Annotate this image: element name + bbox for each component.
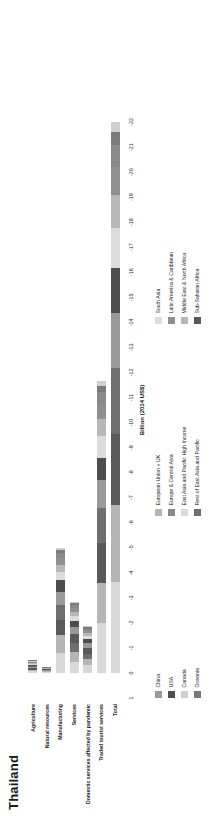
legend-item[interactable]: Sub-Saharan Africa — [191, 154, 203, 324]
category-label: Services — [71, 704, 77, 725]
bar-segment — [111, 368, 120, 434]
legend-label: USA — [168, 677, 174, 688]
legend-item[interactable]: Oceania — [191, 528, 203, 698]
category-label: Domestic services affected by pandemic — [85, 704, 91, 804]
legend-label: East Asia and Pacific High Income — [181, 426, 187, 505]
axis-tick-label: -22 — [128, 118, 134, 126]
bar-segment — [111, 228, 120, 268]
axis-tick-label: -8 — [128, 470, 134, 475]
legend-label: Middle East & North Africa — [181, 253, 187, 314]
bar-row — [97, 122, 106, 698]
legend-item[interactable]: Rest of East Asia and Pacific — [191, 346, 203, 516]
bar-segment — [42, 670, 51, 671]
category-label: Total — [112, 704, 118, 716]
legend-label: Canada — [181, 669, 187, 687]
bar-segment — [111, 313, 120, 368]
bar-row — [42, 122, 51, 698]
axis-tick-label: -20 — [128, 168, 134, 176]
bar-segment — [70, 605, 79, 608]
legend-swatch-icon — [181, 691, 188, 698]
bar-segment — [28, 665, 37, 666]
bar-segment — [56, 548, 65, 551]
axis-tick-label: -15 — [128, 293, 134, 301]
bar-row — [28, 122, 37, 698]
bar-segment — [97, 508, 106, 543]
bar-segment — [97, 623, 106, 673]
bar-segment — [70, 608, 79, 612]
bar-segment — [97, 480, 106, 508]
bar-segment — [42, 670, 51, 671]
legend-swatch-icon — [168, 509, 175, 516]
bar-segment — [56, 620, 65, 635]
bar-segment — [28, 666, 37, 667]
bar-segment — [28, 662, 37, 663]
bar-segment — [28, 667, 37, 668]
bar-segment — [28, 671, 37, 673]
axis-tick-label: -7 — [128, 495, 134, 500]
bar-segment — [70, 627, 79, 635]
bar-segment — [70, 634, 79, 643]
legend-item[interactable]: European Union + UK — [152, 346, 164, 516]
bar-segment — [56, 580, 65, 591]
legend-item[interactable]: East Asia and Pacific High Income — [178, 346, 190, 516]
legend-item[interactable]: USA — [165, 528, 177, 698]
axis-tick-label: 1 — [128, 697, 134, 700]
bar-segment — [83, 627, 92, 628]
bar-segment — [56, 553, 65, 558]
legend-item[interactable]: South Asia — [152, 154, 164, 324]
bar-row — [56, 122, 65, 698]
legend-item[interactable]: Europe & Central Asia — [165, 346, 177, 516]
bar-segment — [28, 663, 37, 664]
page-title: Thailand — [6, 755, 21, 810]
legend-swatch-icon — [168, 691, 175, 698]
legend-label: Europe & Central Asia — [168, 454, 174, 505]
axis-tick-label: -10 — [128, 419, 134, 427]
bar-segment — [56, 572, 65, 581]
legend-swatch-icon — [155, 317, 162, 324]
bar-segment — [70, 616, 79, 621]
rotated-figure-wrapper: Thailand AgricultureNatural resourcesMan… — [0, 0, 215, 816]
legend-swatch-icon — [155, 691, 162, 698]
category-label: Manufacturing — [57, 704, 63, 740]
bar-segment — [70, 643, 79, 652]
axis-tick-label: -1 — [128, 646, 134, 651]
bar-segment — [83, 665, 92, 673]
legend-swatch-icon — [168, 317, 175, 324]
legend-item[interactable]: Canada — [178, 528, 190, 698]
legend-column-1: ChinaUSACanadaOceania — [152, 528, 204, 698]
bar-segment — [56, 635, 65, 653]
bar-segment — [83, 626, 92, 627]
bar-segment — [56, 653, 65, 673]
bar-segment — [83, 631, 92, 634]
bar-row — [70, 122, 79, 698]
category-label: Natural resources — [44, 704, 50, 748]
bar-segment — [111, 132, 120, 145]
bar-segment — [70, 603, 79, 605]
legend-item[interactable]: Latin America & Caribbean — [165, 154, 177, 324]
axis-tick-label: -4 — [128, 570, 134, 575]
legend-swatch-icon — [194, 317, 201, 324]
bar-segment — [97, 436, 106, 457]
bar-segment — [70, 621, 79, 627]
legend-item[interactable]: Middle East & North Africa — [178, 154, 190, 324]
bar-segment — [83, 659, 92, 665]
axis-tick-label: -11 — [128, 394, 134, 401]
legend-item[interactable]: China — [152, 528, 164, 698]
bar-segment — [56, 565, 65, 572]
axis-tick-label: -17 — [128, 243, 134, 251]
bar-segment — [97, 386, 106, 392]
legend-label: European Union + UK — [155, 455, 161, 506]
bar-segment — [97, 392, 106, 403]
bar-row — [111, 122, 120, 698]
bar-segment — [70, 652, 79, 662]
axis-tick-label: -2 — [128, 620, 134, 625]
axis-tick-label: -12 — [128, 369, 134, 377]
bar-segment — [111, 582, 120, 673]
bar-segment — [111, 505, 120, 581]
axis-title: Billion (2014 US$) — [139, 385, 145, 436]
stacked-bar-plot — [26, 122, 122, 698]
bar-segment — [42, 671, 51, 672]
figure: Thailand AgricultureNatural resourcesMan… — [0, 0, 215, 816]
bar-segment — [111, 167, 120, 196]
category-label: Traded tourist services — [98, 704, 104, 761]
